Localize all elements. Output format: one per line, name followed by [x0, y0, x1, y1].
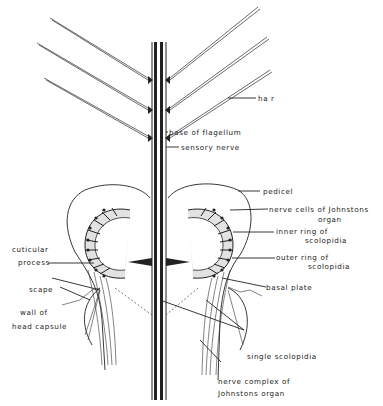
label-nerve-complex-2: Johnstons organ [217, 389, 285, 398]
hairs-left [37, 18, 148, 138]
label-single-scolopidia: single scolopidia [247, 352, 317, 361]
scape-right [228, 287, 262, 350]
label-outer-ring-2: scolopidia [308, 262, 350, 271]
label-wall-1: wall of [20, 308, 48, 317]
label-nerve-cells-1: nerve cells of Johnstons [269, 205, 369, 214]
label-hair: ha r [258, 94, 275, 103]
label-nerve-complex-1: nerve complex of [218, 377, 290, 386]
label-scape: scape [29, 285, 53, 294]
label-base-of-flagellum: base of flagellum [169, 128, 241, 137]
flagellum-shaft [152, 42, 166, 400]
label-inner-ring-2: scolopidia [305, 236, 347, 245]
label-pedicel: pedicel [263, 187, 293, 196]
label-outer-ring-1: outer ring of [276, 253, 329, 262]
johnstons-organ-diagram: ha r base of flagellum sensory nerve ped… [0, 0, 383, 406]
label-nerve-cells-2: organ [318, 215, 342, 224]
label-cuticular-1: cuticular [12, 245, 49, 254]
label-inner-ring-1: inner ring of [276, 227, 328, 236]
organ-right [166, 208, 233, 375]
label-basal-plate: basal plate [266, 283, 312, 292]
label-cuticular-2: process [18, 258, 50, 267]
label-wall-2: head capsule [12, 322, 67, 331]
label-sensory-nerve: sensory nerve [181, 143, 240, 152]
hairs-right [170, 7, 272, 138]
